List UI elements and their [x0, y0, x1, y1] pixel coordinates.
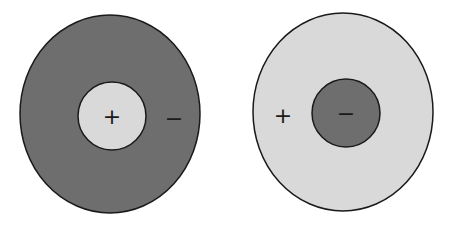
right-inner-minus-sign: −	[337, 101, 355, 126]
charge-diagram: + − + −	[0, 0, 451, 235]
left-inner-plus-sign: +	[103, 104, 121, 129]
left-sphere: + −	[20, 15, 200, 213]
right-outer-plus-sign: +	[274, 103, 292, 128]
left-outer-minus-sign: −	[165, 106, 183, 131]
right-sphere: + −	[253, 13, 433, 211]
